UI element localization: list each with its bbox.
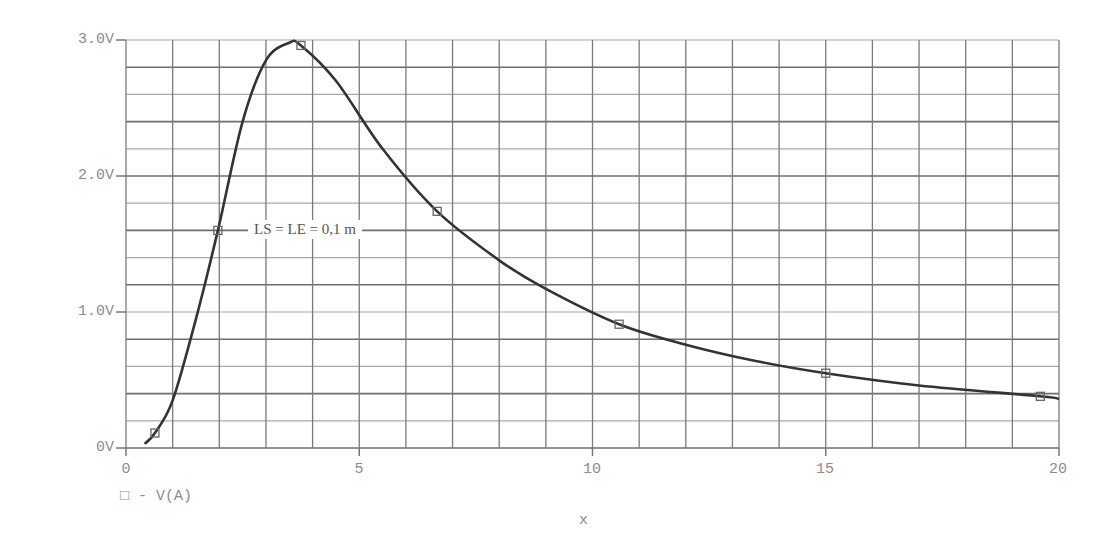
series-line-v-a — [145, 41, 1059, 444]
annotation-label: LS = LE = 0,1 m — [248, 220, 362, 239]
y-tick-label: 2.0V — [14, 167, 114, 184]
y-tick-label: 0V — [14, 439, 114, 456]
x-tick-label: 20 — [1038, 461, 1078, 478]
x-tick-label: 0 — [106, 461, 146, 478]
x-axis-title: x — [579, 512, 588, 529]
y-tick-label: 3.0V — [14, 31, 114, 48]
grid — [126, 40, 1059, 448]
x-tick-label: 15 — [805, 461, 845, 478]
series-markers — [151, 41, 1044, 437]
x-tick-label: 5 — [339, 461, 379, 478]
y-tick-label: 1.0V — [14, 303, 114, 320]
chart-plot-area — [0, 0, 1112, 553]
legend-entry-v-a: □ - V(A) — [120, 488, 192, 505]
x-tick-label: 10 — [572, 461, 612, 478]
